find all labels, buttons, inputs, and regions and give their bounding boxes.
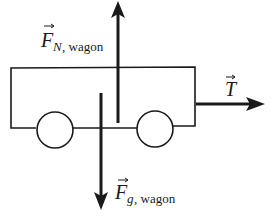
normal-force-subscript-text: , wagon	[62, 39, 104, 54]
vector-arrow-icon	[44, 24, 54, 28]
tension-label: T	[225, 75, 238, 100]
free-body-diagram: F N , wagon T F g , wagon	[0, 0, 271, 217]
tension-symbol: T	[225, 78, 238, 100]
gravity-force-symbol: F	[114, 181, 128, 203]
gravity-force-vector	[94, 93, 108, 210]
wagon	[11, 67, 195, 148]
gravity-force-label: F g , wagon	[114, 178, 176, 206]
right-wheel	[137, 111, 173, 147]
gravity-force-subscript-text: , wagon	[134, 191, 176, 206]
gravity-force-subscript-letter: g	[127, 191, 134, 206]
normal-force-vector	[111, 1, 125, 123]
left-wheel	[37, 112, 73, 148]
normal-force-symbol: F	[40, 29, 54, 51]
normal-force-label: F N , wagon	[40, 24, 104, 54]
